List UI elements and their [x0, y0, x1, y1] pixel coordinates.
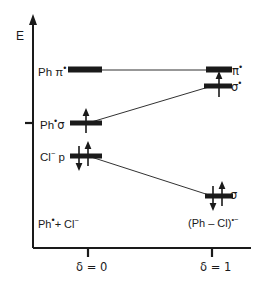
orbital-label-ph-sigma-main: Ph: [40, 119, 54, 131]
state-label-products: (Ph – Cl)•−: [188, 216, 238, 229]
state-label-reactants-b-sup: −: [75, 216, 79, 225]
orbital-label-sigma-star: σ•: [231, 79, 241, 93]
orbital-label-pi-star: π•: [232, 63, 242, 77]
diagram-canvas: [0, 0, 265, 286]
orbital-label-ph-sigma: Ph•σ: [40, 117, 65, 131]
level-ph-sigma: [70, 108, 102, 133]
orbital-label-cl-p-tail: p: [55, 151, 65, 163]
state-label-products-a-sup: •−: [231, 215, 238, 224]
orbital-label-cl-p: Cl− p: [40, 150, 65, 163]
orbital-label-cl-p-main: Cl: [40, 151, 51, 163]
level-bar-sigma: [205, 194, 233, 199]
mo-correlation-diagram: E Ph π• Ph•σ Cl− p π• σ• σ Ph•+ Cl− (Ph …: [0, 0, 265, 286]
orbital-label-ph-pi-star: Ph π•: [38, 64, 66, 78]
orbital-label-sigma-star-sup: •: [238, 78, 241, 88]
level-cl-p: [70, 141, 102, 171]
orbital-label-sigma: σ: [230, 190, 237, 202]
x-tick-label-right: δ = 1: [200, 262, 231, 274]
level-sigma: [205, 181, 233, 211]
state-label-products-a: (Ph – Cl): [188, 217, 231, 229]
level-sigma-star: [204, 71, 232, 97]
level-bar-cl-p: [70, 154, 102, 159]
state-label-reactants-a: Ph: [38, 218, 51, 230]
state-label-reactants: Ph•+ Cl−: [38, 216, 79, 230]
y-axis-label: E: [16, 30, 24, 42]
correlation-line-sigma: [88, 156, 212, 196]
level-ph-pi-star: [68, 67, 102, 73]
correlation-line-sigma-star: [88, 86, 212, 123]
orbital-label-ph-pi-star-sup: •: [63, 63, 66, 73]
x-tick-label-left: δ = 0: [76, 262, 107, 274]
level-bar-ph-pi-star: [68, 67, 102, 73]
orbital-label-ph-pi-star-main: Ph π: [38, 66, 63, 78]
correlation-lines: [88, 70, 212, 196]
level-bar-sigma-star: [204, 84, 232, 89]
state-label-reactants-b: + Cl: [55, 218, 75, 230]
y-axis-arrowhead: [29, 14, 37, 25]
orbital-label-ph-sigma-tail: σ: [57, 118, 64, 132]
orbital-label-pi-star-sup: •: [239, 62, 242, 72]
orbital-label-pi-star-main: π: [232, 64, 239, 78]
